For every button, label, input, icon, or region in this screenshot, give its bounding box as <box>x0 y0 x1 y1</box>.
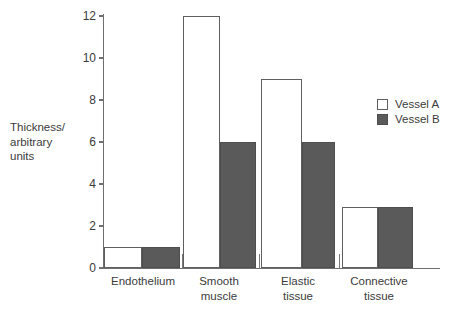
bar-vessel-b <box>142 247 180 268</box>
bar-vessel-b <box>302 142 335 268</box>
legend-item: Vessel B <box>377 112 440 126</box>
y-tick-mark <box>99 15 104 16</box>
bar-vessel-a <box>342 207 378 268</box>
y-tick-mark <box>99 141 104 142</box>
bar-chart: Thickness/ arbitrary units 121086420 End… <box>0 0 455 312</box>
x-axis-category-label: Endothelium <box>100 274 186 289</box>
bar-vessel-a <box>183 16 220 268</box>
bar-vessel-a <box>104 247 142 268</box>
bar-vessel-b <box>220 142 256 268</box>
plot-area: EndotheliumSmooth muscleElastic tissueCo… <box>0 0 455 312</box>
legend-label: Vessel B <box>395 113 440 125</box>
x-axis-category-label: Elastic tissue <box>258 274 338 303</box>
bar-vessel-b <box>378 207 413 268</box>
y-tick-mark <box>99 99 104 100</box>
open-square-swatch <box>377 99 388 110</box>
category-separator <box>339 254 340 268</box>
y-tick-mark <box>99 57 104 58</box>
legend-item: Vessel A <box>377 97 440 111</box>
filled-square-swatch <box>377 114 388 125</box>
x-axis-category-label: Smooth muscle <box>178 274 260 303</box>
category-separator <box>259 254 260 268</box>
legend-label: Vessel A <box>395 98 439 110</box>
chart-legend: Vessel AVessel B <box>377 97 440 127</box>
bar-vessel-a <box>261 79 302 268</box>
y-tick-mark <box>99 225 104 226</box>
y-tick-mark <box>99 183 104 184</box>
y-tick-mark <box>99 267 104 268</box>
x-axis-category-label: Connective tissue <box>337 274 421 303</box>
